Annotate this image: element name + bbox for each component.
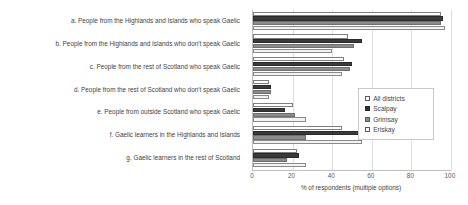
x-tick-label: 100 [445,172,456,179]
legend-item-eriskay[interactable]: Eriskay [365,125,428,136]
category-label: e. People from outside Scotland who spea… [0,108,240,116]
bar-scalpay [253,131,362,135]
legend-swatch-icon [365,96,370,101]
bar-grimsay [253,158,287,162]
bar-all-districts [253,149,297,153]
category-label: g. Gaelic learners in the rest of Scotla… [0,154,240,162]
chart-legend: All districts Scalpay Grimsay Eriskay [358,88,434,140]
bar-grimsay [253,44,354,48]
bar-all-districts [253,34,348,38]
bar-group [253,33,451,56]
category-axis-labels: a. People from the Highlands and Islands… [0,10,246,170]
bar-grimsay [253,113,295,117]
bar-grimsay [253,90,271,94]
bar-all-districts [253,12,441,16]
bar-all-districts [253,57,344,61]
x-tick-label: 20 [288,172,295,179]
legend-item-grimsay[interactable]: Grimsay [365,114,428,125]
bar-all-districts [253,103,293,107]
bar-group [253,10,451,33]
bar-scalpay [253,39,362,43]
category-label: a. People from the Highlands and Islands… [0,17,240,25]
legend-item-all-districts[interactable]: All districts [365,93,428,104]
category-label: c. People from the rest of Scotland who … [0,63,240,71]
legend-label: Grimsay [373,116,398,123]
category-label: f. Gaelic learners in the Highlands and … [0,131,240,139]
bar-eriskay [253,49,332,53]
x-axis-title: % of respondents (multiple options) [252,184,450,191]
legend-label: Scalpay [373,105,396,112]
bar-group [253,56,451,79]
bar-chart: a. People from the Highlands and Islands… [0,0,468,205]
bar-eriskay [253,117,306,121]
bar-scalpay [253,62,352,66]
bar-grimsay [253,135,306,139]
bar-scalpay [253,153,299,157]
bar-eriskay [253,26,445,30]
category-label: b. People from the Highlands and Islands… [0,40,240,48]
x-tick-label: 80 [407,172,414,179]
x-axis-ticks: 0 20 40 60 80 100 [252,172,450,182]
bar-eriskay [253,95,269,99]
gridline [451,10,452,170]
bar-eriskay [253,72,342,76]
legend-swatch-icon [365,117,370,122]
bar-grimsay [253,21,441,25]
bar-all-districts [253,126,342,130]
x-tick-label: 0 [250,172,254,179]
legend-swatch-icon [365,127,370,132]
bar-grimsay [253,67,350,71]
x-tick-label: 60 [367,172,374,179]
bar-scalpay [253,16,443,20]
bar-group [253,147,451,170]
legend-label: All districts [373,95,405,102]
legend-item-scalpay[interactable]: Scalpay [365,104,428,115]
bar-scalpay [253,85,271,89]
bar-eriskay [253,163,306,167]
legend-label: Eriskay [373,126,395,133]
x-tick-label: 40 [328,172,335,179]
bar-all-districts [253,80,269,84]
x-axis-line [252,170,451,171]
bar-scalpay [253,108,285,112]
category-label: d. People from the rest of Scotland who … [0,86,240,94]
legend-swatch-icon [365,106,370,111]
bar-eriskay [253,140,362,144]
